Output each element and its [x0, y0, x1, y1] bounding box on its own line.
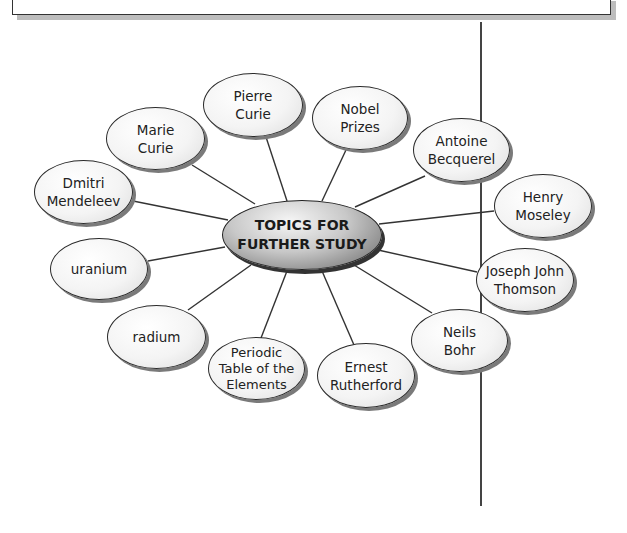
node-pierre-curie: Pierre Curie — [203, 73, 303, 137]
node-nobel-prizes: Nobel Prizes — [312, 86, 408, 150]
link-uranium — [148, 247, 225, 261]
central-topic-node: TOPICS FOR FURTHER STUDY — [222, 200, 382, 270]
link-ernest-rutherford — [322, 271, 354, 345]
link-pierre-curie — [266, 137, 287, 201]
link-joseph-john-thomson — [378, 250, 477, 272]
link-periodic-table — [261, 271, 287, 338]
link-nobel-prizes — [322, 150, 346, 201]
link-neils-bohr — [354, 265, 432, 313]
link-antoine-becquerel — [355, 176, 425, 207]
node-radium: radium — [107, 305, 206, 369]
link-radium — [188, 265, 251, 310]
node-henry-moseley: Henry Moseley — [494, 174, 592, 238]
node-antoine-becquerel: Antoine Becquerel — [413, 118, 510, 182]
node-joseph-john-thomson: Joseph John Thomson — [476, 248, 574, 312]
node-ernest-rutherford: Ernest Rutherford — [317, 343, 415, 408]
link-marie-curie — [192, 165, 255, 204]
node-uranium: uranium — [50, 238, 148, 300]
node-marie-curie: Marie Curie — [106, 107, 205, 170]
node-neils-bohr: Neils Bohr — [411, 309, 508, 372]
node-dmitri-mendeleev: Dmitri Mendeleev — [34, 160, 133, 224]
link-henry-moseley — [379, 211, 494, 224]
link-dmitri-mendeleev — [133, 201, 228, 220]
node-periodic-table: Periodic Table of the Elements — [208, 337, 305, 400]
